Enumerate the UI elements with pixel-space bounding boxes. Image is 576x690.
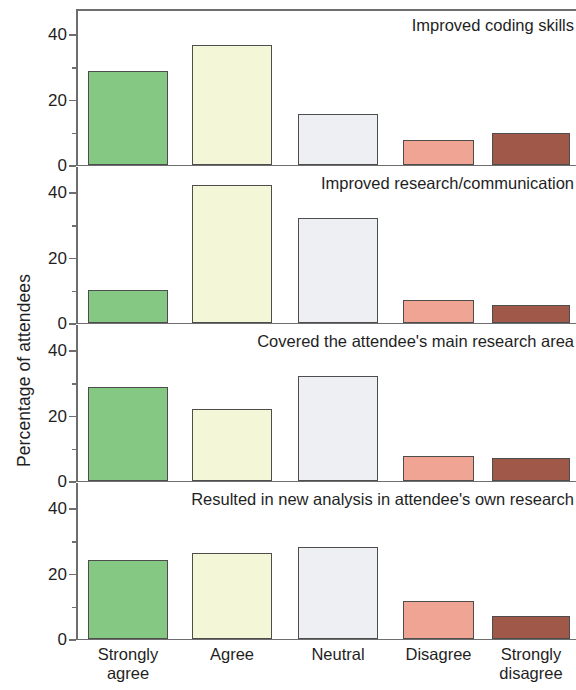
x-category-label: Agree bbox=[178, 645, 286, 664]
y-tick-minor bbox=[72, 607, 77, 609]
bar-strongly-agree bbox=[88, 290, 168, 323]
x-axis-baseline bbox=[76, 165, 576, 167]
y-tick-label: 40 bbox=[48, 499, 67, 519]
bar-strongly-disagree bbox=[492, 458, 570, 481]
y-tick-major bbox=[69, 350, 76, 352]
x-category-label-line1: Strongly bbox=[478, 645, 576, 664]
panel-title: Covered the attendee's main research are… bbox=[257, 332, 574, 351]
y-tick-minor bbox=[72, 383, 77, 385]
x-category-label-line1: Disagree bbox=[389, 645, 488, 664]
bar-strongly-agree bbox=[88, 387, 168, 480]
y-tick-label: 0 bbox=[58, 472, 67, 492]
bar-neutral bbox=[298, 376, 378, 481]
bar-disagree bbox=[403, 140, 474, 165]
y-axis-spine bbox=[76, 167, 78, 324]
panel-top-rule bbox=[76, 9, 576, 11]
bar-strongly-disagree bbox=[492, 616, 570, 639]
y-tick-label: 20 bbox=[48, 565, 67, 585]
bar-agree bbox=[192, 45, 272, 164]
y-tick-major bbox=[69, 574, 76, 576]
y-tick-label: 40 bbox=[48, 25, 67, 45]
panel-title: Resulted in new analysis in attendee's o… bbox=[191, 490, 574, 509]
y-tick-major bbox=[69, 416, 76, 418]
y-tick-major bbox=[69, 100, 76, 102]
bar-neutral bbox=[298, 114, 378, 165]
x-category-label-line1: Neutral bbox=[284, 645, 392, 664]
x-category-label-line1: Strongly bbox=[74, 645, 182, 664]
y-tick-minor bbox=[72, 541, 77, 543]
chart-panel-4: 02040Resulted in new analysis in attende… bbox=[76, 483, 576, 640]
y-tick-major bbox=[69, 165, 76, 167]
y-tick-major bbox=[69, 34, 76, 36]
y-tick-minor bbox=[72, 449, 77, 451]
x-axis-baseline bbox=[76, 639, 576, 641]
x-axis-baseline bbox=[76, 323, 576, 325]
y-tick-major bbox=[69, 258, 76, 260]
panel-title: Improved coding skills bbox=[412, 16, 574, 35]
x-category-label-line2: disagree bbox=[478, 664, 576, 683]
y-tick-major bbox=[69, 192, 76, 194]
y-axis-title: Percentage of attendees bbox=[14, 181, 35, 561]
bar-agree bbox=[192, 553, 272, 638]
y-tick-minor bbox=[72, 225, 77, 227]
y-axis-spine bbox=[76, 9, 78, 166]
y-tick-label: 0 bbox=[58, 156, 67, 176]
x-category-label: Disagree bbox=[389, 645, 488, 664]
bar-disagree bbox=[403, 456, 474, 481]
y-tick-major bbox=[69, 639, 76, 641]
bar-neutral bbox=[298, 547, 378, 639]
y-tick-label: 0 bbox=[58, 630, 67, 650]
y-tick-major bbox=[69, 481, 76, 483]
bar-strongly-disagree bbox=[492, 305, 570, 323]
panel-title: Improved research/communication bbox=[321, 174, 574, 193]
chart-panel-2: 02040Improved research/communication bbox=[76, 167, 576, 324]
bar-agree bbox=[192, 185, 272, 322]
y-tick-label: 20 bbox=[48, 249, 67, 269]
y-axis-spine bbox=[76, 325, 78, 482]
bar-disagree bbox=[403, 601, 474, 639]
chart-panel-1: 02040Improved coding skills bbox=[76, 9, 576, 166]
x-category-label: Neutral bbox=[284, 645, 392, 664]
y-tick-label: 40 bbox=[48, 341, 67, 361]
y-tick-minor bbox=[72, 133, 77, 135]
bar-strongly-agree bbox=[88, 560, 168, 639]
x-category-label: Stronglyagree bbox=[74, 645, 182, 683]
x-category-label-line1: Agree bbox=[178, 645, 286, 664]
bar-disagree bbox=[403, 300, 474, 323]
bar-agree bbox=[192, 409, 272, 481]
bar-strongly-agree bbox=[88, 71, 168, 164]
y-tick-label: 20 bbox=[48, 407, 67, 427]
y-tick-major bbox=[69, 323, 76, 325]
x-category-label: Stronglydisagree bbox=[478, 645, 576, 683]
y-axis-spine bbox=[76, 483, 78, 640]
y-tick-major bbox=[69, 508, 76, 510]
bar-neutral bbox=[298, 218, 378, 323]
bar-strongly-disagree bbox=[492, 133, 570, 164]
x-axis-category-labels: StronglyagreeAgreeNeutralDisagreeStrongl… bbox=[76, 645, 576, 690]
y-tick-minor bbox=[72, 67, 77, 69]
survey-bar-chart-figure: Percentage of attendees 02040Improved co… bbox=[0, 0, 576, 690]
y-tick-label: 40 bbox=[48, 183, 67, 203]
x-axis-baseline bbox=[76, 481, 576, 483]
x-category-label-line2: agree bbox=[74, 664, 182, 683]
y-tick-minor bbox=[72, 291, 77, 293]
chart-panel-3: 02040Covered the attendee's main researc… bbox=[76, 325, 576, 482]
y-tick-label: 20 bbox=[48, 91, 67, 111]
y-tick-label: 0 bbox=[58, 314, 67, 334]
